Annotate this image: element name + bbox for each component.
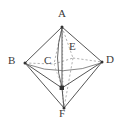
edge-g-d-solid bbox=[62, 62, 102, 88]
edge-c-e-dashed bbox=[54, 58, 73, 64]
vertex-label-b: B bbox=[8, 55, 15, 66]
vertex-label-a: A bbox=[58, 8, 66, 19]
vertex-marker-d bbox=[101, 61, 104, 64]
vertex-label-c: C bbox=[44, 55, 51, 66]
visible-edges-group bbox=[25, 27, 102, 108]
vertex-marker-front-bottom bbox=[60, 86, 64, 90]
vertex-label-f: F bbox=[59, 108, 65, 119]
octahedron-figure: A B C D E F bbox=[0, 0, 125, 127]
vertex-marker-a bbox=[61, 26, 64, 29]
vertex-label-d: D bbox=[106, 54, 114, 65]
meridian-a-c-g-curve bbox=[58, 28, 63, 88]
edge-e-f-dashed bbox=[64, 58, 73, 108]
vertex-label-e: E bbox=[69, 41, 76, 52]
vertex-marker-b bbox=[24, 62, 27, 65]
